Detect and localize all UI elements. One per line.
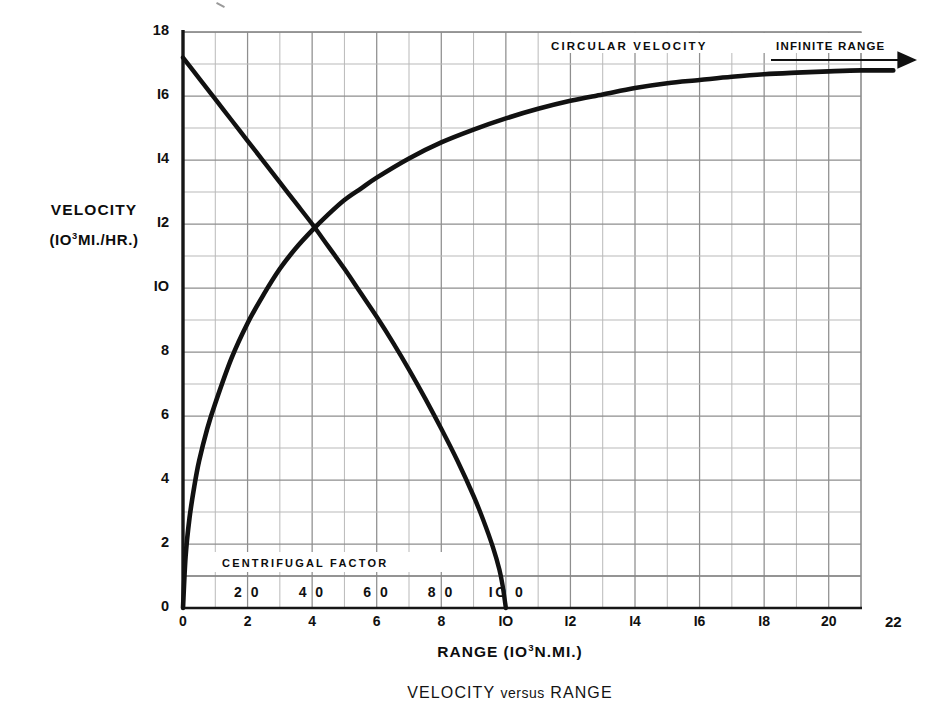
x-axis-title-post: N.MI.) — [534, 643, 582, 660]
y-axis-tick-label: 8 — [143, 342, 169, 358]
x-axis-tick-label: 22 — [878, 613, 908, 630]
caption-versus: versus — [501, 685, 545, 701]
x-axis-tick-label: I2 — [555, 613, 585, 629]
y-axis-tick-label: I4 — [143, 150, 169, 166]
y-axis-tick-label: 4 — [143, 470, 169, 486]
secondary-x-axis-tick-label: 2 0 — [231, 584, 265, 600]
x-axis-tick-label: IO — [491, 613, 521, 629]
x-axis-tick-label: I6 — [685, 613, 715, 629]
y-axis-tick-label: I6 — [143, 86, 169, 102]
secondary-x-axis-tick-label: IO 0 — [489, 584, 523, 600]
y-axis-title-line2-post: MI./HR.) — [78, 231, 139, 248]
annotation-centrifugal-factor: CENTRIFUGAL FACTOR — [222, 557, 388, 569]
x-axis-tick-label: 20 — [814, 613, 844, 629]
caption-right: RANGE — [550, 684, 612, 701]
y-axis-tick-label: I2 — [143, 214, 169, 230]
velocity-versus-range-plot — [0, 0, 939, 723]
y-axis-tick-label: 0 — [143, 598, 169, 614]
y-axis-title-line2-pre: (IO — [49, 231, 72, 248]
secondary-x-axis-tick-label: 6 0 — [360, 584, 394, 600]
x-axis-tick-label: 8 — [426, 613, 456, 629]
annotation-infinite-range: INFINITE RANGE — [776, 40, 885, 52]
x-axis-tick-label: 2 — [233, 613, 263, 629]
y-axis-tick-label: 6 — [143, 406, 169, 422]
secondary-x-axis-tick-label: 4 0 — [295, 584, 329, 600]
x-axis-title: RANGE (IO3N.MI.) — [360, 642, 660, 661]
x-axis-tick-label: I8 — [749, 613, 779, 629]
annotation-circular-velocity: CIRCULAR VELOCITY — [551, 40, 707, 52]
chart-figure: VELOCITY (IO3MI./HR.) RANGE (IO3N.MI.) V… — [0, 0, 939, 723]
x-axis-tick-label: I4 — [620, 613, 650, 629]
secondary-x-axis-tick-label: 8 0 — [424, 584, 458, 600]
x-axis-tick-label: 6 — [362, 613, 392, 629]
y-axis-tick-label: 18 — [143, 22, 169, 38]
x-axis-tick-label: 4 — [297, 613, 327, 629]
x-axis-title-pre: RANGE (IO — [437, 643, 528, 660]
figure-caption: VELOCITY versus RANGE — [330, 684, 690, 702]
y-axis-tick-label: IO — [143, 278, 169, 294]
y-axis-tick-label: 2 — [143, 534, 169, 550]
x-axis-tick-label: 0 — [168, 613, 198, 629]
caption-left: VELOCITY — [407, 684, 495, 701]
